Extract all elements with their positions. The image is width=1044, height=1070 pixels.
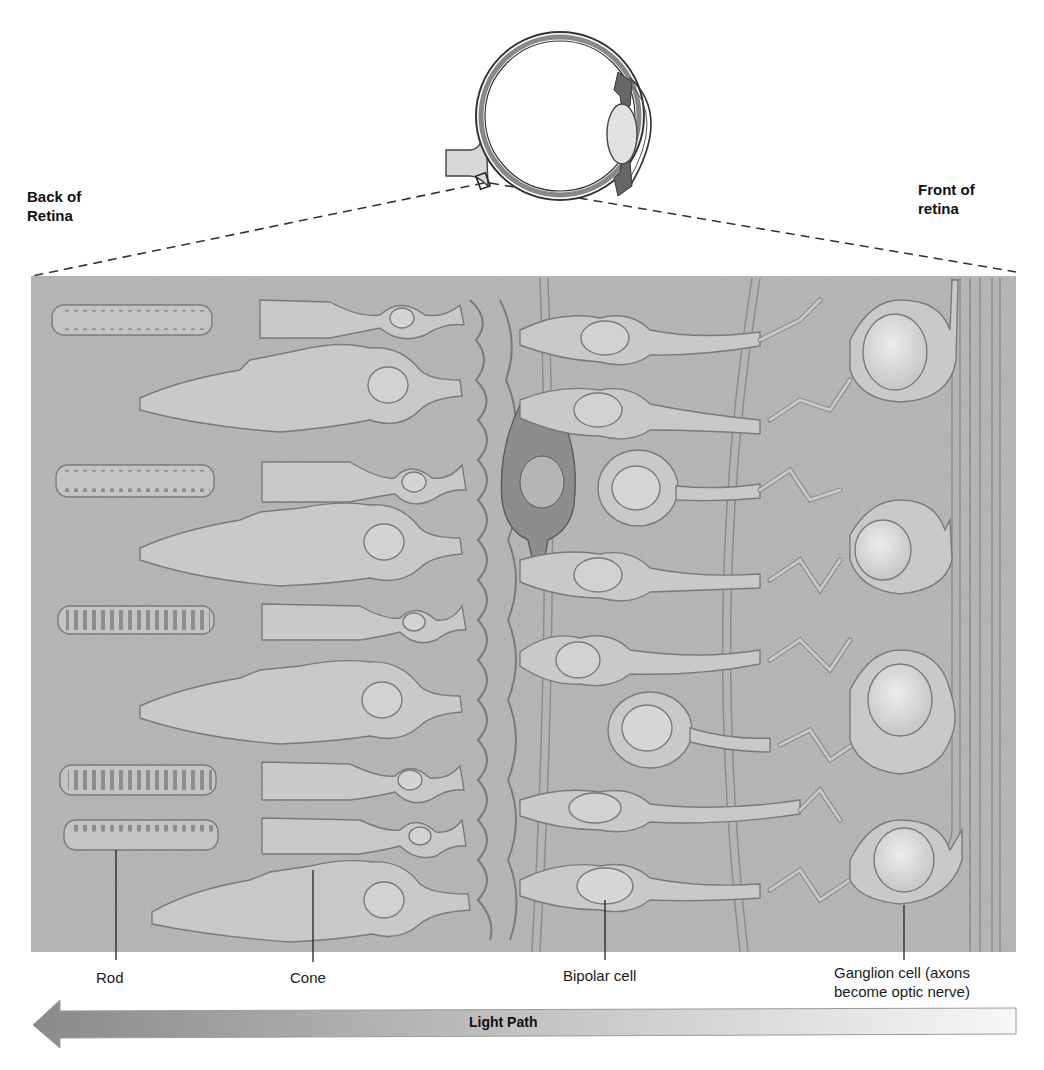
ganglion-cell-label-line1: Ganglion cell (axons [834, 963, 970, 982]
ganglion-cell [850, 650, 955, 774]
rod-label: Rod [96, 968, 124, 987]
light-path-label: Light Path [469, 1014, 537, 1030]
bipolar-cell-label: Bipolar cell [563, 966, 636, 985]
cone-label: Cone [290, 968, 326, 987]
ganglion-cell-label: Ganglion cell (axons become optic nerve) [834, 963, 970, 1001]
ganglion-cell-label-line2: become optic nerve) [834, 982, 970, 1001]
retina-cell-panel [0, 0, 1044, 1070]
ganglion-cell [850, 500, 952, 594]
